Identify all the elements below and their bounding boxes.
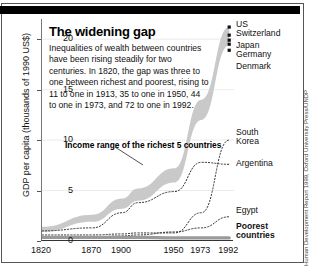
masthead-bar — [0, 6, 300, 14]
series-label-korea: Korea — [236, 137, 259, 147]
x-tick-label: 1992 — [212, 245, 244, 255]
series-label-germany: Germany — [236, 50, 271, 60]
band-annotation-text: Income range of the richest 5 countries — [65, 140, 221, 150]
y-tick-mark — [37, 191, 41, 192]
series-label-egypt: Egypt — [236, 206, 258, 216]
y-axis-title: GDP per capita (thousands of 1990 US$) — [21, 5, 31, 225]
series-label-argentina: Argentina — [236, 159, 273, 169]
y-tick-mark — [37, 39, 41, 40]
y-tick-label: 0 — [51, 235, 73, 245]
y-tick-label: 5 — [51, 185, 73, 195]
chart-body-text: Inequalities of wealth between countries… — [49, 43, 209, 111]
chart-title: The widening gap — [49, 24, 209, 39]
source-credit: Human Development Report 1999, Oxford Un… — [303, 36, 309, 266]
series-label-countries: countries — [236, 231, 275, 241]
y-tick-mark — [37, 140, 41, 141]
x-tick-label: 1870 — [75, 245, 107, 255]
band-annotation: Income range of the richest 5 countries — [65, 140, 221, 150]
chart-figure: GDP per capita (thousands of 1990 US$) H… — [0, 0, 309, 269]
caption-block: The widening gap Inequalities of wealth … — [49, 24, 209, 111]
x-tick-label: 1900 — [105, 245, 137, 255]
series-label-switzerland: Switzerland — [236, 29, 280, 39]
x-tick-label: 1820 — [25, 245, 57, 255]
y-tick-mark — [37, 90, 41, 91]
series-label-denmark: Denmark — [236, 62, 271, 72]
y-tick-mark — [37, 241, 41, 242]
